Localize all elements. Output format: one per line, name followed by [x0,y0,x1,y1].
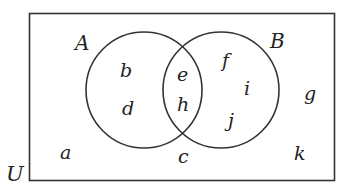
label-set-a: A [73,31,89,55]
set-a-circle [86,32,202,148]
element-k: k [294,142,306,164]
label-set-b: B [269,29,285,53]
element-a: a [60,141,71,163]
element-j: j [224,109,234,131]
element-i: i [244,77,250,99]
element-f: f [220,49,232,71]
element-c: c [178,145,189,167]
label-universe: U [6,162,25,186]
element-d: d [122,97,134,119]
venn-diagram: U A B a b d e h f i j g c k [0,0,343,190]
set-b-circle [163,32,279,148]
element-g: g [304,82,316,104]
element-h: h [177,93,189,115]
element-e: e [177,63,188,85]
element-b: b [120,59,132,81]
